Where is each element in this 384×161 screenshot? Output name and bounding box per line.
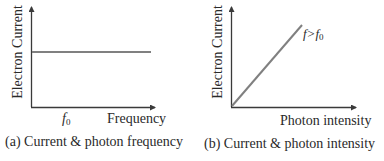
y-axis-label: Electron Current [210, 0, 226, 106]
x-tick-f0: f0 [62, 111, 70, 127]
panel-current-vs-frequency: Electron Current f0 Frequency (a) Curren… [0, 0, 192, 161]
caption: (a) Current & photon frequency [5, 134, 183, 150]
series-annotation: f>f0 [303, 26, 324, 42]
y-axis-label: Electron Current [10, 0, 26, 106]
plot-current-vs-frequency [0, 0, 192, 115]
x-axis-label: Frequency [107, 111, 166, 127]
current-line [232, 25, 302, 106]
caption: (b) Current & photon intensity [204, 136, 375, 152]
panel-current-vs-intensity: Electron Current f>f0 Photon intensity (… [192, 0, 384, 161]
x-axis-label: Photon intensity [280, 113, 371, 129]
